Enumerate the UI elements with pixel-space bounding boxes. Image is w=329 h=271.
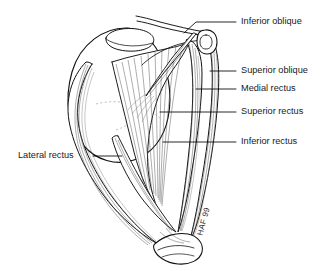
label-superior-rectus: Superior rectus (241, 106, 304, 116)
label-inferior-rectus: Inferior rectus (241, 136, 298, 146)
label-medial-rectus: Medial rectus (241, 83, 296, 93)
label-superior-oblique: Superior oblique (241, 65, 308, 75)
anatomical-figure: Inferior oblique Superior oblique Medial… (0, 0, 329, 271)
cornea-outline (106, 28, 154, 51)
cornea-ellipse (106, 28, 154, 51)
label-inferior-oblique: Inferior oblique (241, 16, 302, 26)
label-lateral-rectus: Lateral rectus (18, 150, 74, 160)
eye-muscle-illustration: Inferior oblique Superior oblique Medial… (0, 0, 329, 271)
trochlea-pulley (197, 30, 217, 54)
